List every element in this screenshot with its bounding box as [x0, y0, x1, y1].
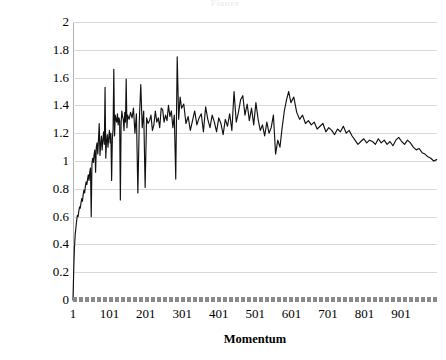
y-axis-tick-labels: 00.20.40.60.811.21.41.61.82 [38, 0, 69, 360]
chart-figure: Figure Mean Deviation of Minimum Physica… [0, 0, 446, 360]
y-axis-tick-label: 1 [38, 154, 69, 167]
y-axis-tick-label: 1.4 [38, 98, 69, 111]
y-axis-tick-label: 1.2 [38, 126, 69, 139]
x-axis-tick-labels: 1101201301401501601701801901 [0, 307, 446, 325]
series-polyline [73, 57, 437, 300]
x-axis-tick-label: 901 [371, 307, 431, 321]
y-axis-tick-label: 0.8 [38, 182, 69, 195]
y-axis-tick-label: 2 [38, 15, 69, 28]
x-axis-title: Momentum [73, 332, 437, 346]
clipped-caption-artifact: Figure [150, 0, 300, 6]
y-axis-tick-label: 0.2 [38, 265, 69, 278]
y-axis-tick-label: 0.6 [38, 210, 69, 223]
y-axis-tick-label: 0.4 [38, 237, 69, 250]
zero-reference-line [73, 297, 438, 302]
series-line-chart [73, 22, 437, 300]
plot-area [73, 22, 437, 300]
y-axis-tick-label: 1.6 [38, 71, 69, 84]
y-axis-tick-label: 1.8 [38, 43, 69, 56]
y-axis-tick-label: 0 [38, 293, 69, 306]
